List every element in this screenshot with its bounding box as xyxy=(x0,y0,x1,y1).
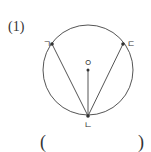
answer-close-paren: ) xyxy=(138,132,144,152)
answer-open-paren: ( xyxy=(40,132,46,152)
segment-giyeok-nieun xyxy=(52,44,88,116)
label-center: ㅇ xyxy=(84,58,92,68)
circle-angle-figure: ㄱ ㄴ ㄷ ㅇ xyxy=(0,0,151,152)
point-center xyxy=(87,69,90,72)
label-nieun: ㄴ xyxy=(84,120,92,130)
point-digeut xyxy=(121,42,125,46)
label-digeut: ㄷ xyxy=(127,39,135,49)
segment-digeut-nieun xyxy=(88,44,123,116)
point-nieun xyxy=(86,114,90,118)
label-giyeok: ㄱ xyxy=(43,39,51,49)
